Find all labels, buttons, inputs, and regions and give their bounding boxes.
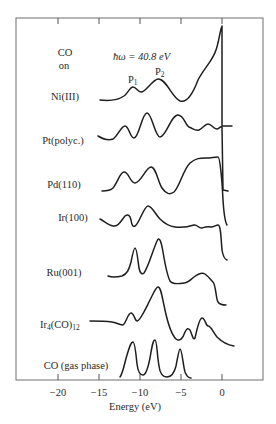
x-axis-title: Energy (eV) (109, 401, 161, 413)
curve-ir4co12 (90, 287, 234, 346)
series-label-co-gas: CO (gas phase) (44, 360, 109, 372)
co-label: CO (58, 47, 73, 58)
on-label: on (59, 60, 70, 71)
bottom-ticks (58, 374, 222, 380)
top-ticks (58, 18, 222, 24)
curve-ni (100, 26, 232, 126)
series-label-pd: Pd(110) (47, 179, 81, 191)
photon-energy-label: ħω = 40.8 eV (113, 51, 172, 62)
series-label-ir100: Ir(100) (58, 212, 88, 224)
tick-label: −15 (91, 387, 107, 398)
curve-ru (108, 239, 226, 305)
peak-label-p2: P2 (155, 66, 165, 79)
series-label-ni: Ni(III) (51, 91, 79, 103)
x-tick-labels: −20 −15 −10 −5 0 (50, 387, 225, 398)
series-label-ir4co12: Ir4(CO)12 (40, 319, 80, 332)
curve-pd (102, 157, 227, 225)
series-label-pt: Pt(polyc.) (42, 135, 84, 147)
photoemission-spectra-chart: −20 −15 −10 −5 0 Energy (eV) CO on ħω = … (0, 0, 276, 424)
tick-label: −10 (132, 387, 148, 398)
series-label-ru: Ru(001) (47, 267, 83, 279)
tick-label: −5 (175, 387, 186, 398)
tick-label: 0 (219, 387, 224, 398)
tick-label: −20 (50, 387, 66, 398)
curve-co-gas (120, 340, 191, 378)
peak-label-p1: P1 (128, 74, 138, 87)
